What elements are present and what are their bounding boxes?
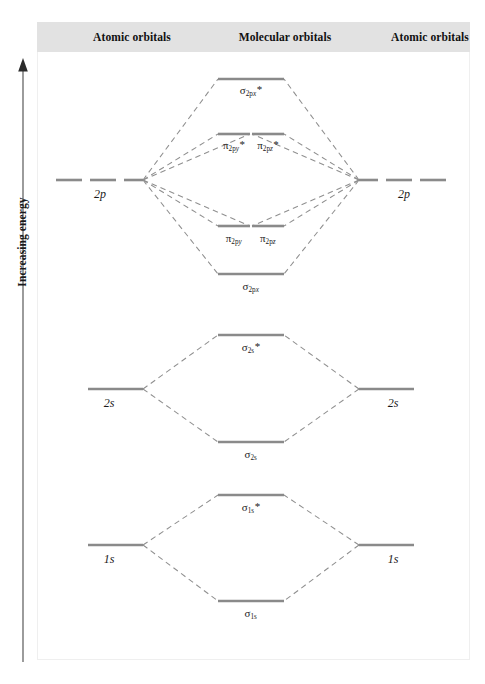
label-pi-2pz: π2pz [260, 232, 276, 247]
diagram-panel: σ2px* π2py* π2pz* π2py π2pz σ2px σ2s* σ2… [37, 52, 470, 660]
label-pi-2py: π2py [226, 232, 242, 247]
correlation-lines-2p [143, 79, 359, 274]
label-pi-2py-star: π2py* [223, 139, 245, 154]
label-sigma-2px: σ2px [243, 280, 260, 295]
molecular-level-bars [218, 79, 284, 601]
column-header-band: Atomic orbitals Molecular orbitals Atomi… [37, 22, 470, 52]
atomic-level-bars [56, 180, 446, 545]
label-sigma-2s: σ2s [245, 448, 258, 463]
label-sigma-2px-star: σ2px* [240, 84, 262, 99]
label-sigma-2s-star: σ2s* [242, 341, 260, 356]
label-left-1s: 1s [104, 553, 115, 565]
label-right-1s: 1s [388, 553, 399, 565]
label-left-2s: 2s [104, 397, 115, 409]
label-right-2p: 2p [398, 188, 410, 200]
mo-diagram-figure: Increasing energy Atomic orbitals Molecu… [0, 0, 485, 684]
label-sigma-1s: σ1s [245, 607, 258, 622]
orbital-level-graphics [38, 52, 471, 660]
label-left-2p: 2p [94, 188, 106, 200]
label-pi-2pz-star: π2pz* [257, 139, 279, 154]
label-right-2s: 2s [388, 397, 399, 409]
energy-axis [12, 58, 38, 662]
energy-axis-label: Increasing energy [16, 172, 28, 312]
energy-axis-arrow-icon [12, 58, 38, 662]
label-sigma-1s-star: σ1s* [242, 501, 260, 516]
header-right-atomic-orbitals: Atomic orbitals [355, 31, 485, 43]
header-molecular-orbitals: Molecular orbitals [205, 31, 365, 43]
header-left-atomic-orbitals: Atomic orbitals [57, 31, 207, 43]
